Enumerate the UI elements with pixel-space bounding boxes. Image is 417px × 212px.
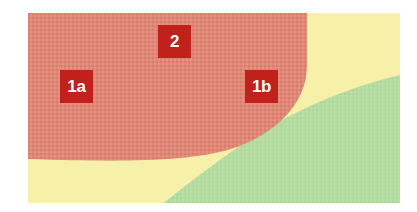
zone-label-1b[interactable]: 1b xyxy=(245,70,278,103)
zone-label-1a[interactable]: 1a xyxy=(60,70,93,103)
zone-label-2[interactable]: 2 xyxy=(158,25,191,58)
zone-map-plate xyxy=(28,13,400,203)
zone-diagram: 1a 2 1b xyxy=(0,0,417,212)
zone-map-svg xyxy=(28,13,400,203)
